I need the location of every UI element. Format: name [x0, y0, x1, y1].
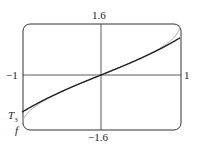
- x-right-tick: 1: [184, 70, 190, 81]
- y-bottom-tick: −1.6: [88, 132, 108, 143]
- plot-area: [0, 0, 199, 144]
- legend-f: f: [15, 125, 18, 136]
- chart: 1.6 −1.6 −1 1 T3 f: [0, 0, 199, 144]
- frame: [23, 24, 181, 130]
- y-top-tick: 1.6: [92, 10, 106, 21]
- x-left-tick: −1: [6, 70, 18, 81]
